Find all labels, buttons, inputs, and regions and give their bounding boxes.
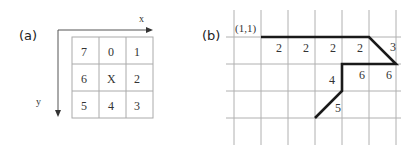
panel-a-label: (a) (19, 28, 37, 43)
chain-code-6: 6 (359, 68, 365, 82)
panel-b: (b) (1,1) 2 2 2 2 3 6 6 4 5 (202, 10, 401, 145)
cell-2-0: 5 (81, 99, 87, 113)
cell-0-1: 0 (108, 45, 114, 59)
panel-a: (a) x y 7 0 1 6 X 2 5 4 3 (19, 13, 153, 118)
cell-1-1: X (107, 72, 116, 86)
y-axis-label: y (36, 96, 41, 107)
y-axis-arrow-icon (55, 110, 61, 117)
figure-canvas: (a) x y 7 0 1 6 X 2 5 4 3 (b) (0, 0, 417, 150)
cell-2-2: 3 (134, 99, 140, 113)
chain-code-5: 3 (390, 40, 396, 54)
x-axis-label: x (139, 13, 144, 24)
panel-b-label: (b) (202, 28, 220, 43)
chain-code-4: 2 (357, 41, 363, 55)
start-point-label: (1,1) (235, 22, 256, 35)
chain-code-1: 2 (276, 41, 282, 55)
x-axis-arrow-icon (146, 27, 153, 33)
chain-code-3: 2 (330, 41, 336, 55)
cell-1-2: 2 (134, 72, 140, 86)
chain-code-2: 2 (303, 41, 309, 55)
cell-2-1: 4 (108, 99, 114, 113)
chain-code-9: 5 (335, 101, 341, 115)
chain-code-8: 4 (329, 73, 335, 87)
cell-0-0: 7 (81, 45, 87, 59)
chain-code-7: 6 (386, 68, 392, 82)
cell-0-2: 1 (134, 45, 140, 59)
cell-1-0: 6 (81, 72, 87, 86)
